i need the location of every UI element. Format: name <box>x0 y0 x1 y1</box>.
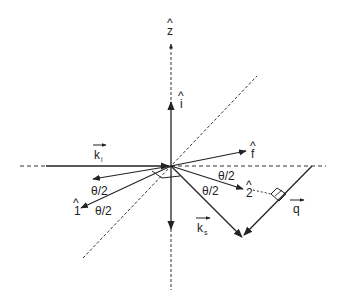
f-hat-label: f ^ <box>250 139 256 161</box>
two-hat-label: 2 ^ <box>246 178 253 200</box>
k-i-label: k i <box>93 145 106 163</box>
i-hat-label: i ^ <box>178 89 184 111</box>
one-hat-label: 1 ^ <box>73 196 81 218</box>
right-angle-inner <box>275 190 282 196</box>
hat-icon: ^ <box>250 139 256 153</box>
minus-f-vector <box>93 166 171 179</box>
svg-text:k: k <box>94 148 101 162</box>
scattering-vector-diagram: z ^ i ^ f ^ k i 1 ^ 2 ^ k s q θ/2 θ/2 θ/… <box>0 0 342 299</box>
k-s-label: k s <box>196 218 210 236</box>
svg-text:q: q <box>293 202 300 216</box>
right-angle-marker-origin <box>152 171 180 178</box>
diagram-canvas: z ^ i ^ f ^ k i 1 ^ 2 ^ k s q θ/2 θ/2 θ/… <box>0 0 342 299</box>
svg-text:s: s <box>204 229 208 236</box>
hat-icon: ^ <box>73 196 79 210</box>
theta-half-label-upper-left: θ/2 <box>91 184 108 198</box>
hat-icon: ^ <box>167 16 173 30</box>
theta-half-label-lower-right: θ/2 <box>202 184 219 198</box>
theta-half-label-lower-left: θ/2 <box>95 204 112 218</box>
z-hat-label: z ^ <box>167 16 173 38</box>
hat-icon: ^ <box>178 89 184 103</box>
theta-half-label-upper-right: θ/2 <box>218 169 235 183</box>
hat-icon: ^ <box>246 178 252 192</box>
svg-text:i: i <box>101 156 103 163</box>
f-hat-vector <box>171 151 246 166</box>
two-hat-projection <box>253 190 271 194</box>
svg-text:k: k <box>197 221 204 235</box>
q-label: q <box>290 200 304 216</box>
